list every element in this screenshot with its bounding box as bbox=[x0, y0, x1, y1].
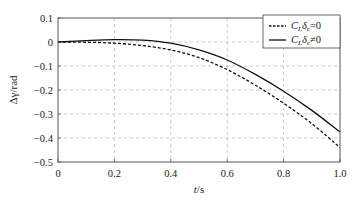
data-series bbox=[58, 40, 340, 148]
y-tick-label: −0.4 bbox=[34, 133, 54, 144]
line-chart: 00.20.40.60.81.0 0.10−0.1−0.2−0.3−0.4−0.… bbox=[0, 0, 363, 202]
y-tick-label: −0.3 bbox=[34, 109, 53, 120]
legend: CLδe=0 CLδe≠0 bbox=[263, 15, 340, 48]
y-tick-label: −0.2 bbox=[34, 85, 53, 96]
x-axis-unit: /s bbox=[197, 183, 204, 195]
x-tick-label: 0.4 bbox=[164, 168, 178, 179]
y-axis-label: Δγ/rad bbox=[7, 75, 19, 105]
x-axis-label: t/s bbox=[194, 183, 204, 195]
y-tick-label: −0.1 bbox=[34, 61, 53, 72]
y-tick-label: 0.1 bbox=[40, 13, 53, 24]
x-tick-label: 0.8 bbox=[277, 168, 290, 179]
x-tick-label: 0.6 bbox=[221, 168, 234, 179]
y-tick-label: −0.5 bbox=[34, 157, 53, 168]
y-axis-ticks: 0.10−0.1−0.2−0.3−0.4−0.5 bbox=[34, 13, 61, 168]
series-solid-line bbox=[58, 40, 340, 132]
x-tick-label: 0.2 bbox=[108, 168, 121, 179]
x-tick-label: 1.0 bbox=[333, 168, 346, 179]
y-tick-label: 0 bbox=[48, 37, 53, 48]
x-tick-label: 0 bbox=[55, 168, 60, 179]
series-dashed-line bbox=[58, 42, 340, 148]
